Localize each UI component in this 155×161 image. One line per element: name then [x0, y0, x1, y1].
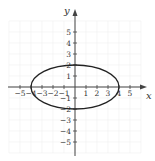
y-tick-label: −3: [60, 116, 71, 125]
y-tick-label: 3: [66, 50, 71, 59]
y-tick-label: −1: [60, 94, 71, 103]
y-tick-label: −5: [60, 138, 71, 147]
x-axis-label: x: [146, 90, 152, 101]
y-axis-label: y: [63, 5, 70, 16]
y-tick-label: 1: [66, 72, 71, 81]
y-tick-label: 5: [66, 28, 71, 37]
y-tick-label: 4: [66, 39, 71, 48]
ellipse-plot: x y −5−4−3−2−112345−5−4−3−2−112345: [0, 0, 155, 161]
x-tick-label: 3: [106, 89, 111, 98]
x-tick-label: −5: [14, 89, 25, 98]
x-axis-arrow-icon: [140, 85, 147, 90]
x-tick-label: 1: [84, 89, 89, 98]
x-tick-label: 5: [128, 89, 133, 98]
x-tick-label: −2: [47, 89, 58, 98]
x-tick-label: 2: [95, 89, 100, 98]
x-tick-label: −3: [36, 89, 47, 98]
axes: x y: [8, 5, 152, 156]
y-tick-label: −4: [60, 127, 71, 136]
y-axis-arrow-icon: [73, 9, 78, 16]
